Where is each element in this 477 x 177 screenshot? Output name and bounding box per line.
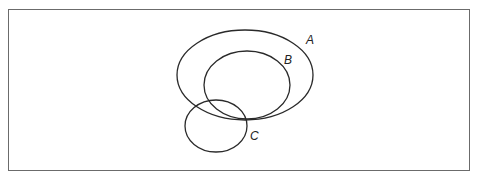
venn-diagram: A B C	[0, 0, 477, 177]
set-a-label: A	[305, 33, 314, 47]
set-c-label: C	[250, 129, 259, 143]
set-a-ellipse	[177, 30, 313, 120]
set-b-ellipse	[204, 51, 290, 119]
set-b-label: B	[284, 53, 292, 67]
